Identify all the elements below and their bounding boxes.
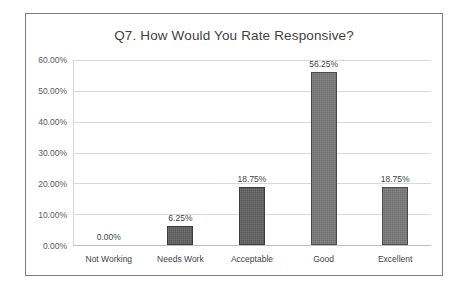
gridline: 0.00% <box>73 245 431 246</box>
bar-value-label: 18.75% <box>238 174 267 184</box>
bar-group: 18.75%Acceptable <box>216 60 288 245</box>
y-axis-tick-label: 30.00% <box>38 148 67 158</box>
plot-area: 0.00%10.00%20.00%30.00%40.00%50.00%60.00… <box>73 60 431 245</box>
bar-value-label: 0.00% <box>97 232 121 242</box>
x-axis-category-label: Good <box>313 254 334 264</box>
bar-group: 56.25%Good <box>288 60 360 245</box>
y-axis-tick-label: 50.00% <box>38 86 67 96</box>
y-axis-tick-label: 10.00% <box>38 210 67 220</box>
y-axis-tick-label: 20.00% <box>38 179 67 189</box>
y-axis-tick-label: 40.00% <box>38 117 67 127</box>
bar[interactable] <box>239 187 265 245</box>
chart-container: Q7. How Would You Rate Responsive? 0.00%… <box>25 13 443 276</box>
bar[interactable] <box>311 72 337 245</box>
bar[interactable] <box>167 226 193 245</box>
bar-value-label: 18.75% <box>381 174 410 184</box>
bar[interactable] <box>382 187 408 245</box>
chart-title: Q7. How Would You Rate Responsive? <box>26 28 442 43</box>
y-axis-tick-label: 60.00% <box>38 55 67 65</box>
y-axis-tick-label: 0.00% <box>43 241 67 251</box>
bar-value-label: 6.25% <box>168 213 192 223</box>
x-axis-category-label: Not Working <box>85 254 132 264</box>
x-axis-category-label: Acceptable <box>231 254 273 264</box>
bar-group: 6.25%Needs Work <box>145 60 217 245</box>
x-axis-category-label: Excellent <box>378 254 413 264</box>
x-axis-category-label: Needs Work <box>157 254 204 264</box>
bar-group: 18.75%Excellent <box>359 60 431 245</box>
bar-value-label: 56.25% <box>309 59 338 69</box>
bar-group: 0.00%Not Working <box>73 60 145 245</box>
